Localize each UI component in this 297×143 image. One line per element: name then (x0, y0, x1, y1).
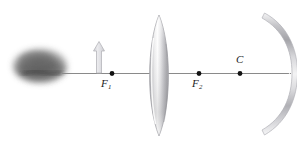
label-c: C (236, 54, 244, 67)
object-blob (13, 49, 67, 83)
label-f1-subscript: 1 (108, 83, 111, 90)
figure-canvas (0, 0, 297, 143)
label-f1: F1 (101, 78, 111, 91)
focal-point-f1 (110, 71, 115, 76)
label-f2-letter: F (192, 77, 199, 89)
focal-point-f2 (197, 71, 202, 76)
label-f2-subscript: 2 (199, 83, 202, 90)
converging-lens (150, 15, 169, 136)
label-f1-letter: F (101, 77, 108, 89)
label-f2: F2 (192, 78, 202, 91)
center-of-curvature-c (238, 71, 243, 76)
optics-figure: F1 F2 C (0, 0, 297, 143)
object-arrow (94, 42, 105, 74)
label-c-letter: C (236, 53, 243, 65)
